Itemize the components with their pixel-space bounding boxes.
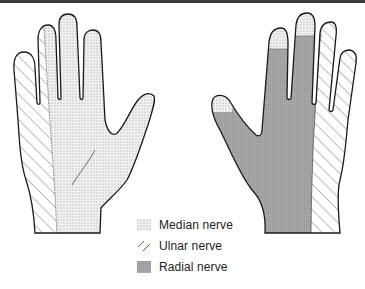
dots-swatch-icon — [137, 219, 151, 231]
median-tip-thumb — [205, 90, 235, 112]
legend-item-ulnar: Ulnar nerve — [137, 235, 233, 256]
legend: Median nerve Ulnar nerve Radial nerve — [137, 214, 233, 277]
hatch-swatch-icon — [137, 240, 151, 252]
legend-label: Median nerve — [159, 218, 233, 232]
legend-item-median: Median nerve — [137, 214, 233, 235]
right-hand-dorsal — [180, 0, 365, 240]
shade-swatch-icon — [137, 261, 151, 273]
legend-label: Ulnar nerve — [159, 239, 222, 253]
legend-item-radial: Radial nerve — [137, 256, 233, 277]
legend-label: Radial nerve — [159, 260, 228, 274]
left-hand-palmar — [0, 0, 180, 240]
